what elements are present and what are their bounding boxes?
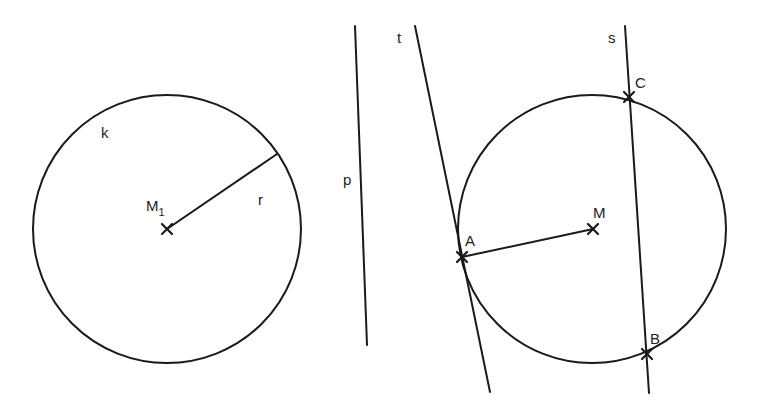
label-b: B — [650, 330, 660, 347]
tangent-line-t — [415, 26, 490, 392]
label-k: k — [101, 124, 109, 141]
line-p-group: p — [343, 26, 367, 345]
label-t: t — [397, 29, 402, 46]
label-s: s — [608, 29, 616, 46]
label-a: A — [465, 232, 475, 249]
geometry-canvas: k r M1 p t s M A C B — [0, 0, 759, 412]
label-c: C — [635, 74, 646, 91]
segment-am — [462, 229, 593, 257]
label-m1-subscript: 1 — [159, 206, 165, 218]
label-r: r — [258, 191, 263, 208]
line-p — [355, 26, 367, 345]
label-p: p — [343, 171, 351, 188]
right-figure: t s M A C B — [397, 26, 726, 393]
label-m: M — [593, 204, 606, 221]
label-m1-main: M — [146, 197, 159, 214]
left-figure: k r M1 — [33, 95, 301, 363]
center-m1-cross-icon — [162, 224, 172, 234]
label-m1: M1 — [146, 197, 165, 218]
